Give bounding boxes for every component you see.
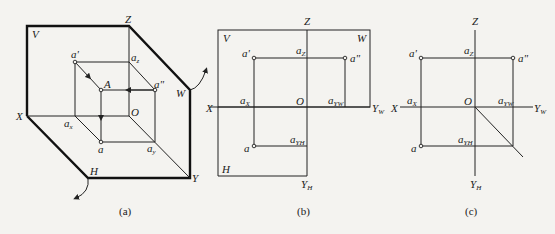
label-YH: YH [301,178,313,192]
label-aYH: aYH [458,133,473,147]
label-X: X [15,110,24,122]
auxiliary-45-line [475,107,523,157]
label-a-prime: a' [242,47,251,59]
label-X: X [205,102,214,114]
point-a-double-prime [343,56,347,60]
label-YW: YW [534,102,547,116]
projection-figure: V Z W X O H Y A a' a" a az ax ay (a) V W… [0,0,555,234]
label-aX: aX [240,94,251,108]
point-a-prime [419,56,423,60]
point-a-prime [73,60,77,64]
label-a-double-prime: a" [154,78,165,90]
label-aYW: aYW [328,94,344,108]
label-a-prime: a' [409,47,418,59]
label-aZ: aZ [464,44,474,58]
point-a-prime [252,56,256,60]
label-O: O [131,106,139,118]
label-X: X [390,102,399,114]
label-W: W [357,32,367,44]
label-ax: ax [64,117,74,131]
label-H: H [221,163,231,175]
panel-c: Z X O YW YH a' a" a aZ aX aYW aYH (c) [390,15,547,218]
proj-line [129,62,155,90]
proj-line [75,116,101,142]
label-YW: YW [372,102,385,116]
caption-c: (c) [465,205,478,218]
label-a: a [411,142,417,154]
label-a: a [98,143,104,155]
label-Z: Z [125,13,132,25]
label-aYW: aYW [498,94,514,108]
caption-a: (a) [119,205,132,218]
label-Z: Z [304,15,311,27]
projection-ray [89,77,101,90]
point-a-double-prime [511,56,515,60]
caption-b: (b) [297,205,310,218]
projection-ray [75,62,89,77]
label-a-double-prime: a" [350,52,361,64]
panel-a: V Z W X O H Y A a' a" a az ax ay (a) [15,13,206,218]
label-aYH: aYH [290,133,305,147]
w-rotation-arrow [190,70,206,90]
label-O: O [464,95,472,107]
h-rotation-arrow [76,178,88,198]
label-A: A [103,78,111,90]
label-O: O [296,95,304,107]
label-YH: YH [470,178,482,192]
y-axis [129,116,190,178]
label-a-prime: a' [71,48,80,60]
label-H: H [89,165,99,177]
label-aX: aX [407,94,418,108]
point-A [99,88,103,92]
point-a [252,144,256,148]
label-Y: Y [192,172,200,184]
label-a: a [244,142,250,154]
label-az: az [131,51,140,65]
label-W: W [176,87,186,99]
v-plane-outline [27,26,190,178]
label-a-double-prime: a" [518,52,529,64]
panel-b: V W H Z X O YW YH a' a" a aZ aX aYW aYH … [205,15,385,218]
label-V: V [32,28,40,40]
label-V: V [223,32,231,44]
point-a [419,144,423,148]
label-Z: Z [472,15,479,27]
label-ay: ay [147,142,157,156]
label-aZ: aZ [296,44,306,58]
